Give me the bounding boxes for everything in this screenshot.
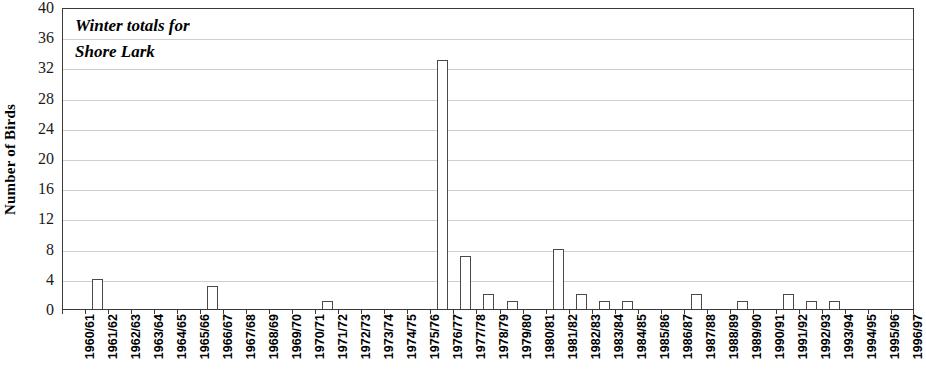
x-axis-tick-label: 1993/94 xyxy=(841,314,857,379)
bar[interactable] xyxy=(437,60,448,309)
bar-slot xyxy=(708,8,731,309)
bar[interactable] xyxy=(783,294,794,309)
bar[interactable] xyxy=(460,256,471,309)
bar-slot xyxy=(846,8,869,309)
bar[interactable] xyxy=(92,279,103,309)
x-axis-tick-label: 1986/87 xyxy=(680,314,696,379)
x-axis-tick-label: 1979/80 xyxy=(519,314,535,379)
bar[interactable] xyxy=(599,301,610,309)
x-axis-tick-label: 1977/78 xyxy=(473,314,489,379)
x-axis-tick-label: 1962/63 xyxy=(128,314,144,379)
x-axis-tick-label: 1968/69 xyxy=(266,314,282,379)
bar-slot xyxy=(593,8,616,309)
x-axis-tick-label: 1967/68 xyxy=(243,314,259,379)
x-axis-tick-label: 1992/93 xyxy=(818,314,834,379)
bar-slot xyxy=(616,8,639,309)
x-axis-tick-label: 1980/81 xyxy=(542,314,558,379)
bar[interactable] xyxy=(829,301,840,309)
bar-slot xyxy=(362,8,385,309)
x-axis-tick-labels: 1960/611961/621962/631963/641964/651965/… xyxy=(62,314,914,379)
x-axis-tick-label: 1964/65 xyxy=(174,314,190,379)
y-axis-tick-label: 28 xyxy=(38,90,54,108)
y-axis-tick-label: 0 xyxy=(46,301,54,319)
bar-slot xyxy=(524,8,547,309)
bar-slot xyxy=(431,8,454,309)
bar-slot xyxy=(201,8,224,309)
bar-slot xyxy=(178,8,201,309)
bar-slot xyxy=(408,8,431,309)
y-axis-tick-label: 20 xyxy=(38,150,54,168)
bar-slot xyxy=(892,8,914,309)
bar[interactable] xyxy=(483,294,494,309)
x-axis-tick-label: 1995/96 xyxy=(887,314,903,379)
y-axis-title: Number of Birds xyxy=(0,0,22,318)
bar-slot xyxy=(63,8,86,309)
bar-slot xyxy=(823,8,846,309)
y-axis-tick-labels: 0481216202428323640 xyxy=(22,0,58,318)
x-axis-tick-label: 1963/64 xyxy=(151,314,167,379)
y-axis-tick-label: 40 xyxy=(38,0,54,17)
y-axis-tick-label: 12 xyxy=(38,210,54,228)
x-axis-tick-label: 1974/75 xyxy=(404,314,420,379)
plot-area: Winter totals forShore Lark xyxy=(62,8,914,310)
x-axis-tick-label: 1966/67 xyxy=(220,314,236,379)
x-axis-tick-label: 1965/66 xyxy=(197,314,213,379)
x-axis-tick-label: 1972/73 xyxy=(358,314,374,379)
x-axis-tick-label: 1969/70 xyxy=(289,314,305,379)
bar[interactable] xyxy=(507,301,518,309)
bar-slot xyxy=(869,8,892,309)
x-axis-tick-label: 1961/62 xyxy=(105,314,121,379)
bar-slot xyxy=(800,8,823,309)
x-axis-tick-label: 1996/97 xyxy=(910,314,926,379)
bar-slot xyxy=(685,8,708,309)
bar[interactable] xyxy=(207,286,218,309)
bar-slot xyxy=(501,8,524,309)
bar-slot xyxy=(316,8,339,309)
x-axis-tick-label: 1975/76 xyxy=(427,314,443,379)
bar-slot xyxy=(639,8,662,309)
x-axis-tick-label: 1994/95 xyxy=(864,314,880,379)
bar-slot xyxy=(224,8,247,309)
x-axis-tick-label: 1970/71 xyxy=(312,314,328,379)
bar-slot xyxy=(385,8,408,309)
x-axis-tick-label: 1978/79 xyxy=(496,314,512,379)
x-axis-tick-label: 1989/90 xyxy=(749,314,765,379)
bar[interactable] xyxy=(553,249,564,309)
bar[interactable] xyxy=(691,294,702,309)
bar-slot xyxy=(293,8,316,309)
bar-slot xyxy=(570,8,593,309)
bar-slot xyxy=(754,8,777,309)
bar-slot xyxy=(731,8,754,309)
x-axis-tick-label: 1991/92 xyxy=(795,314,811,379)
x-axis-tick-label: 1988/89 xyxy=(726,314,742,379)
y-axis-tick-label: 16 xyxy=(38,180,54,198)
y-axis-tick-label: 36 xyxy=(38,29,54,47)
y-axis-tick-label: 32 xyxy=(38,59,54,77)
bar[interactable] xyxy=(622,301,633,309)
bar-slot xyxy=(270,8,293,309)
x-axis-tick-label: 1971/72 xyxy=(335,314,351,379)
x-axis-tick-label: 1982/83 xyxy=(588,314,604,379)
bar-slot xyxy=(155,8,178,309)
x-axis-tick-label: 1976/77 xyxy=(450,314,466,379)
x-axis-tick-label: 1983/84 xyxy=(611,314,627,379)
bar[interactable] xyxy=(576,294,587,309)
bar-slot xyxy=(247,8,270,309)
y-axis-tick-label: 8 xyxy=(46,241,54,259)
x-axis-tick-label: 1973/74 xyxy=(381,314,397,379)
bar-slot xyxy=(454,8,477,309)
bar-slot xyxy=(547,8,570,309)
x-axis-tick-label: 1984/85 xyxy=(634,314,650,379)
bar[interactable] xyxy=(806,301,817,309)
x-axis-tick-label: 1990/91 xyxy=(772,314,788,379)
y-axis-tick-label: 24 xyxy=(38,120,54,138)
bar-slot xyxy=(477,8,500,309)
bar-slot xyxy=(86,8,109,309)
bar-slot xyxy=(339,8,362,309)
bar[interactable] xyxy=(322,301,333,309)
x-axis-tick-label: 1985/86 xyxy=(657,314,673,379)
x-axis-tick-label: 1960/61 xyxy=(82,314,98,379)
bar[interactable] xyxy=(737,301,748,309)
bar-slot xyxy=(777,8,800,309)
